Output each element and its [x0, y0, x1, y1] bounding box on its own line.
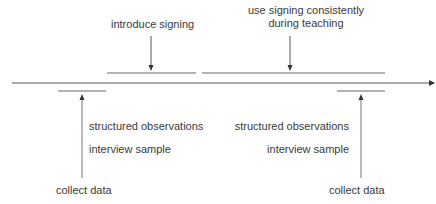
label-introduce-signing: introduce signing [111, 18, 194, 31]
label-right-collect: collect data [329, 184, 385, 197]
label-left-collect: collect data [56, 184, 112, 197]
arrow-up-icon [359, 94, 364, 178]
arrow-down-icon [149, 36, 154, 71]
label-right-observations: structured observations [221, 120, 349, 133]
arrow-up-icon [80, 94, 85, 178]
arrow-down-icon [288, 36, 293, 71]
label-right-interview: interview sample [221, 143, 349, 156]
label-left-observations: structured observations [89, 120, 203, 133]
label-use-signing-line1: use signing consistently [236, 4, 376, 17]
label-use-signing-line2: during teaching [236, 17, 376, 30]
timeline-diagram [0, 0, 436, 204]
label-use-signing-consistently: use signing consistently during teaching [236, 4, 376, 30]
label-left-interview: interview sample [89, 143, 171, 156]
